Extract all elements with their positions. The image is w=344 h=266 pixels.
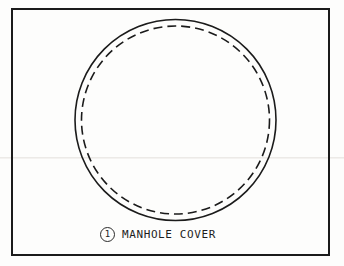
manhole-cover-outline (75, 20, 276, 221)
callout-bubble: 1 (100, 227, 115, 242)
callout-text: MANHOLE COVER (122, 229, 216, 240)
manhole-cover-hidden-edge (82, 26, 270, 214)
callout-label: 1 MANHOLE COVER (100, 227, 216, 242)
callout-number: 1 (105, 230, 110, 239)
drawing-sheet: 1 MANHOLE COVER (0, 0, 344, 266)
